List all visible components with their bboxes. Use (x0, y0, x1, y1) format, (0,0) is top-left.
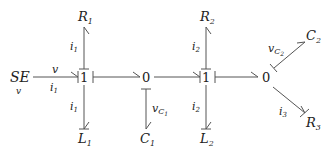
bond-1a-to-l1: i1 (70, 85, 89, 129)
se-effort-label: v (52, 63, 59, 76)
junction-0b: 0 (262, 70, 270, 85)
bond-se-to-1: v i1 (33, 63, 78, 95)
r1-flow-label: i1 (70, 40, 78, 54)
se-sub-label: v (16, 86, 21, 96)
svg-text:R1: R1 (77, 9, 93, 26)
svg-text:L2: L2 (199, 131, 214, 148)
bond-1a-to-r1: i1 (70, 27, 89, 69)
svg-text:C2: C2 (306, 28, 321, 45)
junction-0a: 0 (142, 70, 150, 85)
bond-0b-to-c2: vC2 (268, 42, 305, 72)
r2-node: R2 (199, 9, 215, 26)
source-effort-node: SE v (10, 69, 30, 96)
bond-1b-to-0b (215, 71, 258, 83)
svg-text:L1: L1 (77, 131, 92, 148)
r3-node: R3 (305, 115, 321, 132)
bond-1a-to-0a (93, 71, 140, 83)
svg-text:R2: R2 (199, 9, 215, 26)
c2-effort-label: vC2 (268, 42, 284, 57)
r3-flow-label: i3 (279, 105, 288, 119)
l1-node: L1 (77, 131, 92, 148)
c2-node: C2 (306, 28, 321, 45)
l2-flow-label: i2 (192, 100, 201, 114)
svg-text:R3: R3 (305, 115, 321, 132)
bond-0b-to-r3: i3 (273, 87, 309, 119)
c1-node: C1 (140, 131, 155, 148)
bond-0a-to-1b (154, 71, 200, 83)
se-label: SE (10, 69, 30, 85)
bond-1b-to-r2: i2 (192, 27, 211, 69)
c1-effort-label: vC1 (152, 102, 168, 117)
r2-flow-label: i2 (192, 40, 201, 54)
junction-1b: 1 (202, 70, 210, 85)
bond-graph-diagram: SE v v i1 1 i1 R1 i1 L1 0 (0, 0, 333, 157)
r1-node: R1 (77, 9, 93, 26)
se-flow-label: i1 (50, 81, 58, 95)
l2-node: L2 (199, 131, 214, 148)
l1-flow-label: i1 (70, 100, 78, 114)
bond-0a-to-c1: vC1 (141, 89, 168, 129)
svg-text:C1: C1 (140, 131, 155, 148)
bond-1b-to-l2: i2 (192, 85, 211, 129)
junction-1a: 1 (80, 70, 88, 85)
